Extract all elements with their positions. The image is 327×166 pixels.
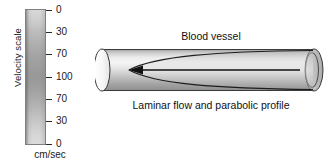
laminar-flow-caption: Laminar flow and parabolic profile <box>95 99 327 111</box>
scale-tick-2 <box>46 54 52 55</box>
scale-tick-1 <box>46 32 52 33</box>
scale-tick-label-2: 70 <box>56 49 67 59</box>
scale-tick-label-5: 30 <box>56 116 67 126</box>
scale-tick-label-4: 70 <box>56 94 67 104</box>
scale-tick-4 <box>46 99 52 100</box>
scale-tick-label-6: 0 <box>56 139 62 149</box>
blood-vessel-illustration <box>95 44 327 96</box>
scale-tick-0 <box>46 10 52 11</box>
velocity-units-label: cm/sec <box>15 149 85 160</box>
scale-tick-label-0: 0 <box>56 5 62 15</box>
scale-tick-label-1: 30 <box>56 27 67 37</box>
vessel-diagram-group: Blood vessel <box>95 0 327 166</box>
velocity-scale-group: Velocity scale 0 30 70 100 70 30 0 cm/se… <box>0 0 95 166</box>
vessel-left-opening <box>95 49 110 91</box>
velocity-gradient-bar <box>25 9 46 145</box>
blood-vessel-title: Blood vessel <box>95 30 327 42</box>
velocity-scale-axis-label: Velocity scale <box>12 3 23 113</box>
scale-tick-5 <box>46 121 52 122</box>
scale-tick-3 <box>46 77 52 78</box>
scale-tick-6 <box>46 144 52 145</box>
scale-tick-label-3: 100 <box>56 72 73 82</box>
